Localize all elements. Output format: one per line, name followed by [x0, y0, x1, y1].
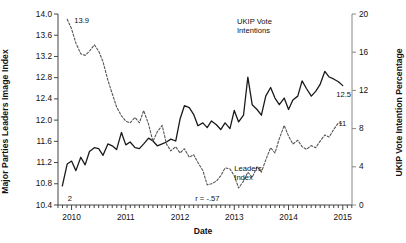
annotation-leaders-end-value: 11	[338, 119, 346, 129]
x-axis-tick-label: 2010	[52, 212, 92, 222]
annotation-line: 11	[338, 119, 346, 129]
x-axis-title: Date	[0, 226, 406, 236]
annotation-correlation: r = -.57	[195, 194, 219, 204]
y-axis-left-tick-label: 12.8	[18, 72, 52, 82]
x-axis-tick-label: 2011	[106, 212, 146, 222]
chart-figure: Major Parties Leaders Image Index UKIP V…	[0, 0, 406, 243]
annotation-ukip-end-value: 12.5	[336, 90, 351, 100]
y-axis-left-tick-label: 11.2	[18, 157, 52, 167]
y-axis-right-tick-label: 8	[359, 123, 385, 133]
annotation-line: 12.5	[336, 90, 351, 100]
y-axis-left-tick-label: 12.4	[18, 93, 52, 103]
x-axis-tick-label: 2014	[269, 212, 309, 222]
y-axis-left-tick-label: 13.2	[18, 51, 52, 61]
annotation-line: Index	[234, 173, 261, 183]
annotation-line: Leaders	[234, 164, 261, 174]
annotation-ukip-start-value: 2	[68, 194, 72, 204]
y-axis-left-tick-label: 10.4	[18, 200, 52, 210]
y-axis-right-tick-label: 12	[359, 85, 385, 95]
y-axis-right-tick-label: 0	[359, 200, 385, 210]
x-axis-tick-label: 2013	[214, 212, 254, 222]
annotation-leaders-series-label: LeadersIndex	[234, 164, 261, 183]
y-axis-left-tick-label: 10.8	[18, 178, 52, 188]
annotation-line: UKIP Vote	[237, 17, 272, 27]
y-axis-right-tick-label: 20	[359, 9, 385, 19]
series-line-2	[67, 19, 343, 188]
y-axis-left-tick-label: 12.0	[18, 115, 52, 125]
annotation-ukip-series-label: UKIP VoteIntentions	[237, 17, 272, 36]
y-axis-left-tick-label: 13.6	[18, 30, 52, 40]
annotation-line: r = -.57	[195, 194, 219, 204]
y-axis-left-title: Major Parties Leaders Image Index	[0, 0, 12, 243]
x-axis-tick-label: 2012	[160, 212, 200, 222]
x-axis-tick-label: 2015	[323, 212, 363, 222]
y-axis-left-tick-label: 14.0	[18, 9, 52, 19]
y-axis-right-tick-label: 4	[359, 161, 385, 171]
annotation-line: 13.9	[74, 16, 89, 26]
annotation-line: Intentions	[237, 26, 272, 36]
annotation-leaders-start-value: 13.9	[74, 16, 89, 26]
y-axis-right-tick-label: 16	[359, 47, 385, 57]
series-line-1	[62, 71, 342, 186]
annotation-line: 2	[68, 194, 72, 204]
y-axis-left-tick-label: 11.6	[18, 136, 52, 146]
y-axis-right-title: UKIP Vote Intention Percentage	[392, 0, 406, 225]
